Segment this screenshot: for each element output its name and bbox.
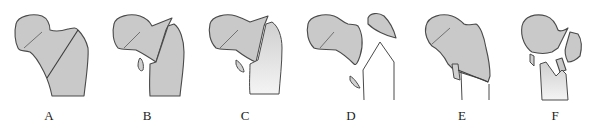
panel-label-e: E bbox=[452, 108, 472, 124]
fracture-drawings bbox=[0, 0, 593, 132]
panel-label-a: A bbox=[39, 108, 59, 124]
panel-label-f: F bbox=[545, 108, 565, 124]
fracture-classification-figure: A B C D E F bbox=[0, 0, 593, 132]
panel-b-drawing bbox=[113, 15, 184, 96]
panel-d-drawing bbox=[307, 14, 396, 100]
panel-label-c: C bbox=[235, 108, 255, 124]
panel-a-drawing bbox=[15, 15, 88, 96]
panel-f-drawing bbox=[522, 15, 582, 100]
panel-e-drawing bbox=[425, 15, 490, 100]
panel-label-b: B bbox=[137, 108, 157, 124]
panel-c-drawing bbox=[209, 15, 282, 94]
panel-label-d: D bbox=[341, 108, 361, 124]
